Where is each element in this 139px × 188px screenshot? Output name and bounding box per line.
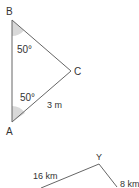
- side-label-ac: 3 m: [47, 100, 62, 110]
- vertex-label-c: C: [74, 66, 81, 77]
- angle-label-b: 50°: [17, 44, 32, 55]
- route-figure-y: Y 16 km 8 km: [33, 152, 139, 188]
- angle-label-a: 50°: [20, 92, 35, 103]
- side-label-8km: 8 km: [120, 179, 139, 188]
- triangle-abc: B C A 50° 50° 3 m: [6, 6, 81, 137]
- side-label-16km: 16 km: [33, 171, 58, 181]
- vertex-label-b: B: [6, 6, 13, 17]
- diagram-canvas: B C A 50° 50° 3 m Y 16 km 8 km: [0, 0, 139, 188]
- angle-arc-b: [12, 20, 24, 36]
- side-8km: [99, 164, 117, 187]
- vertex-label-a: A: [6, 126, 13, 137]
- angle-arc-a: [12, 106, 25, 122]
- vertex-label-y: Y: [96, 152, 102, 162]
